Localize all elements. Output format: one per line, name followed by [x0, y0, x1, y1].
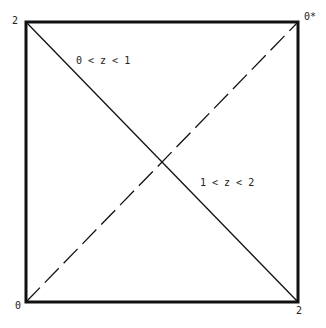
corner-label-bottom-left: 0 [15, 300, 21, 311]
region-label-upper: 0 < z < 1 [76, 55, 130, 66]
corner-label-bottom-right: 2 [296, 305, 302, 316]
region-label-lower: 1 < z < 2 [200, 177, 254, 188]
corner-label-top-left: 2 [12, 15, 18, 26]
diagram-canvas: 2 0* 0 2 0 < z < 1 1 < z < 2 [0, 0, 326, 328]
corner-label-top-right: 0* [304, 11, 316, 22]
